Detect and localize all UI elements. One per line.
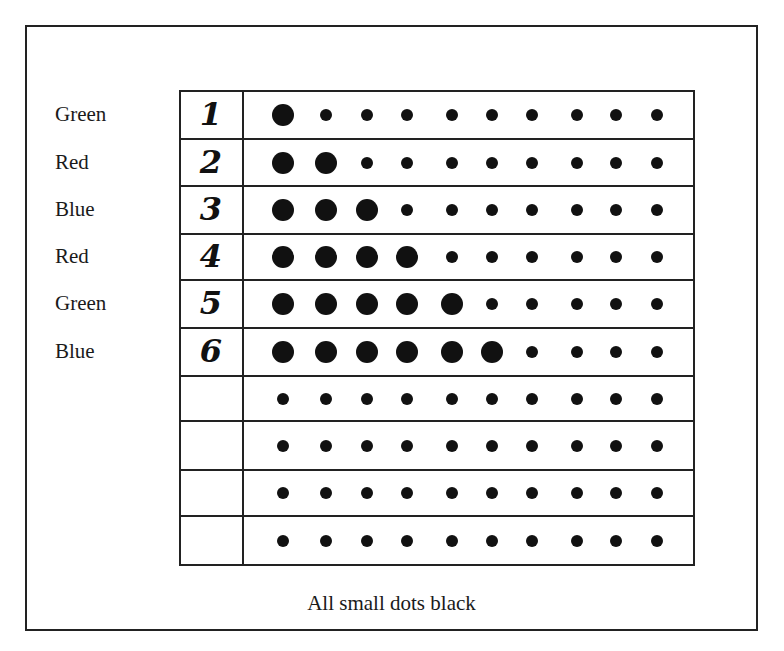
small-dot [320,440,332,452]
large-dot [272,104,294,126]
large-dot [315,341,337,363]
small-dot [651,440,663,452]
small-dot [446,251,458,263]
small-dot [277,487,289,499]
small-dot [277,393,289,405]
small-dot [277,440,289,452]
large-dot [356,199,378,221]
small-dot [446,157,458,169]
small-dot [486,440,498,452]
large-dot [315,152,337,174]
small-dot [526,157,538,169]
small-dot [320,109,332,121]
small-dot [401,204,413,216]
small-dot [571,298,583,310]
small-dot [320,535,332,547]
small-dot [486,157,498,169]
small-dot [571,109,583,121]
row-separator [179,375,695,377]
small-dot [571,487,583,499]
small-dot [610,298,622,310]
large-dot [356,293,378,315]
row-separator [179,138,695,140]
small-dot [651,251,663,263]
large-dot [396,341,418,363]
large-dot [272,152,294,174]
small-dot [571,251,583,263]
small-dot [486,298,498,310]
small-dot [486,393,498,405]
small-dot [651,393,663,405]
small-dot [361,109,373,121]
row-separator [179,185,695,187]
small-dot [361,440,373,452]
small-dot [401,440,413,452]
row-number: 1 [180,96,242,132]
small-dot [361,535,373,547]
large-dot [441,341,463,363]
small-dot [610,346,622,358]
small-dot [610,487,622,499]
small-dot [361,487,373,499]
small-dot [610,535,622,547]
small-dot [571,393,583,405]
small-dot [610,157,622,169]
small-dot [610,440,622,452]
row-color-label: Red [55,244,89,268]
row-color-label: Green [55,291,106,315]
small-dot [610,251,622,263]
small-dot [486,109,498,121]
large-dot [272,293,294,315]
large-dot [315,199,337,221]
small-dot [486,535,498,547]
row-color-label: Blue [55,339,95,363]
row-color-label: Red [55,150,89,174]
row-separator [179,327,695,329]
small-dot [526,204,538,216]
large-dot [356,341,378,363]
small-dot [446,393,458,405]
large-dot [396,293,418,315]
small-dot [571,157,583,169]
small-dot [610,109,622,121]
small-dot [486,487,498,499]
small-dot [401,393,413,405]
large-dot [272,341,294,363]
small-dot [526,298,538,310]
small-dot [320,487,332,499]
small-dot [610,393,622,405]
small-dot [401,487,413,499]
large-dot [441,293,463,315]
small-dot [401,109,413,121]
small-dot [651,535,663,547]
small-dot [651,204,663,216]
small-dot [571,346,583,358]
small-dot [526,251,538,263]
small-dot [446,535,458,547]
small-dot [361,157,373,169]
small-dot [526,535,538,547]
small-dot [610,204,622,216]
small-dot [651,298,663,310]
small-dot [446,109,458,121]
small-dot [571,204,583,216]
small-dot [526,440,538,452]
small-dot [526,487,538,499]
small-dot [320,393,332,405]
caption: All small dots black [25,590,758,616]
small-dot [446,487,458,499]
small-dot [651,346,663,358]
small-dot [651,157,663,169]
small-dot [401,157,413,169]
large-dot [396,246,418,268]
small-dot [277,535,289,547]
row-number: 4 [180,238,242,274]
small-dot [651,487,663,499]
small-dot [446,204,458,216]
large-dot [315,246,337,268]
small-dot [361,393,373,405]
row-number: 6 [180,333,242,369]
small-dot [651,109,663,121]
row-separator [179,469,695,471]
small-dot [401,535,413,547]
